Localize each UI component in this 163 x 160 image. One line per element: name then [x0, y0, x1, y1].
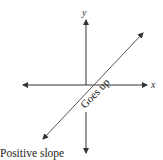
- coordinate-diagram: y x Goes up: [0, 0, 163, 160]
- x-axis-label: x: [150, 79, 156, 90]
- goes-up-annotation: Goes up: [78, 76, 112, 111]
- figure-caption: Positive slope: [0, 147, 64, 159]
- y-axis-label: y: [81, 7, 87, 18]
